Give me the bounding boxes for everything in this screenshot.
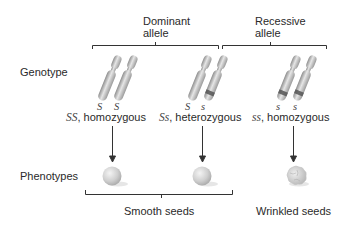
seed-wrinkled [287, 166, 309, 187]
genotype-label-ss: ss, homozygous [252, 111, 329, 123]
seed-smooth-1 [103, 167, 129, 187]
chromosome-pair-Ss [187, 54, 229, 102]
phenotypes-row-label: Phenotypes [20, 170, 78, 182]
seed-smooth-2 [193, 167, 219, 187]
genotype-label-SS: SS, homozygous [66, 111, 146, 123]
dominant-allele-header: Dominant allele [143, 15, 190, 39]
recessive-allele-header: Recessive allele [255, 15, 306, 39]
genotype-row-label: Genotype [20, 66, 68, 78]
chromosome-pair-ss [276, 54, 318, 102]
wrinkled-seeds-label: Wrinkled seeds [256, 205, 331, 217]
smooth-seeds-label: Smooth seeds [124, 205, 194, 217]
genotype-label-Ss: Ss, heterozygous [159, 111, 241, 123]
chromosome-pair-SS [97, 54, 139, 102]
recessive-bracket [223, 42, 327, 49]
dominant-bracket [93, 42, 219, 49]
smooth-seeds-bracket [86, 190, 233, 198]
